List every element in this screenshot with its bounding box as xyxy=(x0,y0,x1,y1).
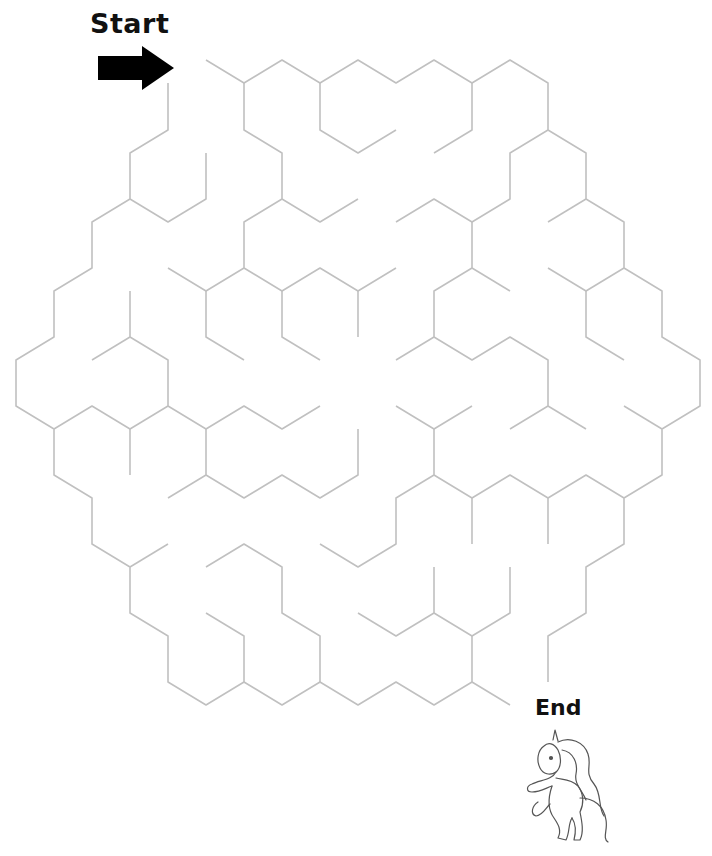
maze-wall xyxy=(206,291,244,360)
maze-wall xyxy=(54,337,168,429)
maze-wall xyxy=(206,544,320,682)
maze-wall xyxy=(206,429,358,498)
maze-wall xyxy=(434,475,624,498)
maze-wall xyxy=(168,429,206,498)
maze-wall xyxy=(282,291,320,360)
maze-wall xyxy=(548,199,586,222)
maze-wall xyxy=(206,613,244,682)
maze-wall xyxy=(130,544,168,567)
maze-wall xyxy=(624,406,662,429)
maze-wall xyxy=(16,83,510,705)
maze-wall xyxy=(396,406,472,429)
maze-wall xyxy=(168,199,282,291)
maze-wall xyxy=(586,291,624,360)
maze-wall xyxy=(206,60,700,682)
maze-wall xyxy=(396,130,548,222)
maze-wall xyxy=(168,406,320,429)
maze-wall xyxy=(434,337,548,429)
maze-wall xyxy=(320,429,434,567)
maze-wall xyxy=(434,83,472,153)
maze-wall xyxy=(244,83,358,222)
unicorn-icon xyxy=(518,728,618,846)
maze-wall xyxy=(396,222,472,360)
maze-wall xyxy=(434,567,510,636)
maze-wall xyxy=(92,291,130,360)
maze-wall xyxy=(472,268,510,291)
maze-wall xyxy=(244,268,396,291)
maze-wall xyxy=(130,153,206,222)
end-label: End xyxy=(535,695,581,720)
maze-wall xyxy=(548,268,624,291)
maze-wall xyxy=(320,83,396,153)
maze-wall xyxy=(548,406,586,429)
maze-wall xyxy=(358,567,434,636)
